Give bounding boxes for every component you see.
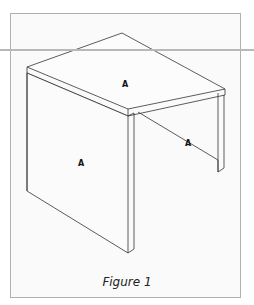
label-top-surface: A [122,80,128,89]
left-panel-edge [128,113,134,253]
label-right-panel: A [185,139,191,148]
figure-caption: Figure 1 [102,275,151,289]
label-left-panel: A [78,159,84,168]
right-panel [138,112,218,172]
right-panel-edge [218,93,224,172]
table-isometric-drawing [0,0,254,305]
horizontal-rule [0,49,254,51]
